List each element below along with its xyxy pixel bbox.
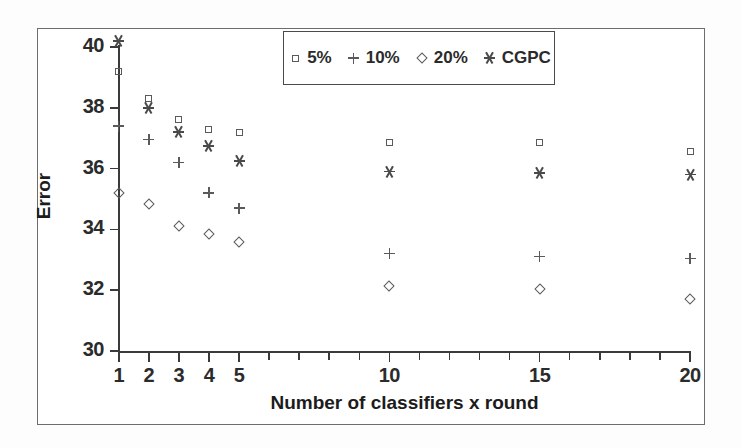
square-marker-icon xyxy=(201,121,217,137)
square-marker-icon xyxy=(287,50,303,66)
plus-marker-icon xyxy=(346,50,362,66)
y-axis-tick-label: 32 xyxy=(62,277,104,300)
square-marker-icon xyxy=(381,135,397,151)
data-point xyxy=(141,132,157,148)
data-point xyxy=(201,138,217,154)
diamond-marker-icon xyxy=(201,226,217,242)
plus-marker-icon xyxy=(201,185,217,201)
data-point xyxy=(682,250,698,266)
x-axis-tick xyxy=(298,352,300,360)
y-axis-tick-label-wrap: 30 xyxy=(56,338,104,360)
diamond-marker-icon xyxy=(682,291,698,307)
diamond-marker-icon xyxy=(111,185,127,201)
x-axis-tick xyxy=(328,352,330,360)
legend-label: 20% xyxy=(434,48,468,68)
y-axis-tick xyxy=(110,107,119,109)
diamond-marker-icon xyxy=(171,218,187,234)
star-marker-icon xyxy=(231,153,247,169)
data-point xyxy=(201,226,217,242)
data-point xyxy=(682,144,698,160)
data-point xyxy=(171,155,187,171)
plus-marker-icon xyxy=(231,200,247,216)
x-axis-tick xyxy=(539,352,541,362)
data-point xyxy=(682,291,698,307)
legend-entry-cgpc: CGPC xyxy=(482,48,551,68)
figure: 303234363840 12345101520 5%10%20%CGPC Nu… xyxy=(0,0,742,448)
plus-marker-icon xyxy=(381,246,397,262)
legend-entry-5pct: 5% xyxy=(287,48,332,68)
x-axis-tick xyxy=(569,352,571,360)
x-axis-tick xyxy=(148,352,150,362)
diamond-marker-icon xyxy=(381,278,397,294)
x-axis-tick-label: 5 xyxy=(219,364,259,387)
x-axis-tick-label: 15 xyxy=(520,364,560,387)
x-axis-tick xyxy=(449,352,451,360)
y-axis-tick xyxy=(110,229,119,231)
data-point xyxy=(201,121,217,137)
y-axis-tick-label: 30 xyxy=(62,338,104,361)
star-marker-icon xyxy=(141,100,157,116)
x-axis-tick xyxy=(178,352,180,362)
data-point xyxy=(381,278,397,294)
data-point xyxy=(141,100,157,116)
x-axis-tick xyxy=(479,352,481,360)
legend-label: CGPC xyxy=(502,48,551,68)
x-axis-tick xyxy=(509,352,511,360)
x-axis-tick xyxy=(659,352,661,360)
legend-entry-10pct: 10% xyxy=(346,48,400,68)
data-point xyxy=(381,135,397,151)
square-marker-icon xyxy=(682,144,698,160)
data-point xyxy=(171,218,187,234)
data-point xyxy=(231,200,247,216)
plus-marker-icon xyxy=(141,132,157,148)
data-point xyxy=(111,33,127,49)
x-axis-tick xyxy=(268,352,270,360)
diamond-marker-icon xyxy=(414,50,430,66)
y-axis-tick-label: 36 xyxy=(62,156,104,179)
star-marker-icon xyxy=(482,50,498,66)
data-point xyxy=(532,281,548,297)
data-point xyxy=(111,118,127,134)
x-axis-tick xyxy=(689,352,691,362)
star-marker-icon xyxy=(682,167,698,183)
star-marker-icon xyxy=(201,138,217,154)
y-axis-title: Error xyxy=(33,136,55,256)
x-axis-tick-label: 20 xyxy=(670,364,710,387)
star-marker-icon xyxy=(111,33,127,49)
y-axis-tick-label-wrap: 32 xyxy=(56,277,104,299)
data-point xyxy=(171,124,187,140)
y-axis-tick xyxy=(110,289,119,291)
data-point xyxy=(532,135,548,151)
x-axis-tick xyxy=(359,352,361,360)
star-marker-icon xyxy=(381,164,397,180)
data-point xyxy=(231,153,247,169)
diamond-marker-icon xyxy=(231,234,247,250)
y-axis-tick-label: 34 xyxy=(62,216,104,239)
star-marker-icon xyxy=(532,165,548,181)
diamond-marker-icon xyxy=(141,196,157,212)
plot-area: 303234363840 12345101520 5%10%20%CGPC Nu… xyxy=(0,0,742,448)
diamond-marker-icon xyxy=(532,281,548,297)
square-marker-icon xyxy=(532,135,548,151)
data-point xyxy=(532,249,548,265)
legend: 5%10%20%CGPC xyxy=(283,31,555,85)
data-point xyxy=(231,234,247,250)
x-axis-tick xyxy=(629,352,631,360)
star-marker-icon xyxy=(171,124,187,140)
x-axis-title: Number of classifiers x round xyxy=(118,392,691,414)
x-axis-tick xyxy=(599,352,601,360)
y-axis-tick-label-wrap: 38 xyxy=(56,95,104,117)
data-point xyxy=(532,165,548,181)
legend-entry-20pct: 20% xyxy=(414,48,468,68)
x-axis-tick xyxy=(238,352,240,362)
y-axis-tick xyxy=(110,168,119,170)
plus-marker-icon xyxy=(682,250,698,266)
square-marker-icon xyxy=(231,124,247,140)
plus-marker-icon xyxy=(532,249,548,265)
y-axis-tick-label-wrap: 36 xyxy=(56,156,104,178)
y-axis-tick-label: 38 xyxy=(62,95,104,118)
data-point xyxy=(682,167,698,183)
x-axis-tick-label: 10 xyxy=(369,364,409,387)
x-axis-tick xyxy=(208,352,210,362)
x-axis-tick xyxy=(419,352,421,360)
